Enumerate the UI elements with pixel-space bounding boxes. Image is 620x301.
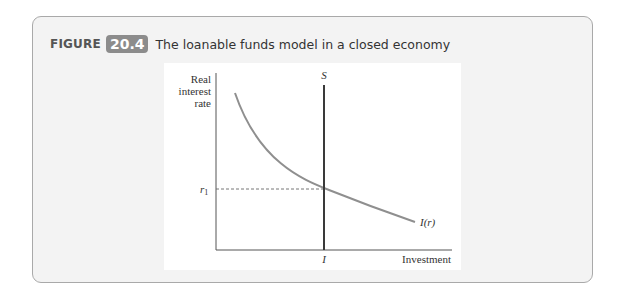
x-axis-label: Investment [402,253,451,265]
supply-label: S [321,69,327,81]
figure-header: FIGURE 20.4 The loanable funds model in … [50,35,450,53]
equilibrium-investment-tick-label: I [321,253,327,265]
r1-label: r1 [200,183,208,197]
y-axis-label-line-1: Real [191,73,211,85]
y-axis-label-line-3: rate [195,97,212,109]
investment-curve-label: I(r) [419,216,436,229]
figure-title: The loanable funds model in a closed eco… [155,37,450,52]
chart-area: Real interest rate S r1 I(r) I Investmen… [164,63,461,270]
y-axis-label-line-2: interest [179,85,211,97]
loanable-funds-chart: Real interest rate S r1 I(r) I Investmen… [164,63,461,270]
figure-number-badge: 20.4 [106,35,149,53]
figure-label: FIGURE [50,37,101,51]
